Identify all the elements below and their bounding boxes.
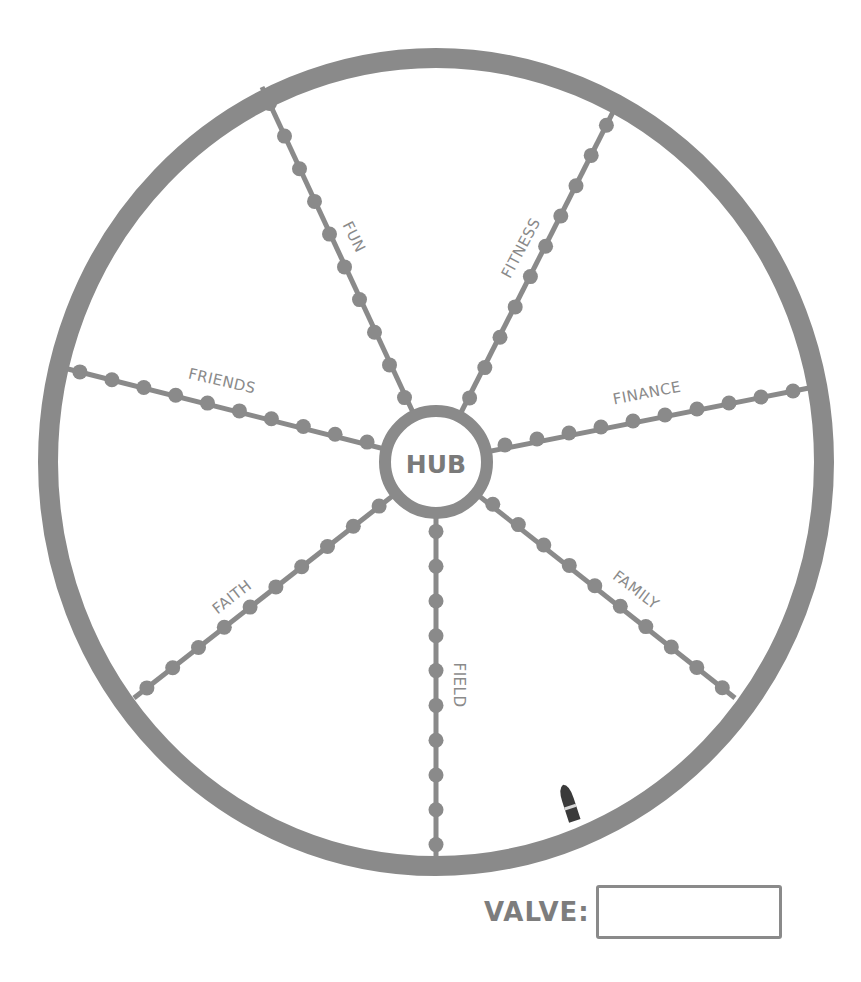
spoke-dot xyxy=(367,325,382,340)
hub-label: HUB xyxy=(406,450,466,479)
spoke-dot xyxy=(562,426,577,441)
spoke-dot xyxy=(690,402,705,417)
valve-input[interactable] xyxy=(596,885,782,939)
spoke-dot xyxy=(243,600,258,615)
spoke-label-field: FIELD xyxy=(450,663,468,708)
spoke-dot xyxy=(477,360,492,375)
spoke-dot xyxy=(191,640,206,655)
spoke-fitness xyxy=(436,110,614,462)
spoke-dot xyxy=(360,435,375,450)
spoke-dot xyxy=(139,680,154,695)
spoke-dot xyxy=(569,178,584,193)
valve-label: VALVE: xyxy=(484,897,590,927)
spoke-line xyxy=(134,462,436,698)
spoke-dot xyxy=(382,357,397,372)
spoke-dot xyxy=(536,538,551,553)
spoke-dot xyxy=(722,396,737,411)
spoke-dot xyxy=(200,396,215,411)
spoke-dot xyxy=(530,432,545,447)
spoke-dot xyxy=(584,148,599,163)
spoke-dot xyxy=(498,438,513,453)
spoke-line xyxy=(436,462,735,698)
spoke-dot xyxy=(429,768,444,783)
spoke-dot xyxy=(72,364,87,379)
spoke-label-fitness: FITNESS xyxy=(498,215,545,281)
spoke-dot xyxy=(429,594,444,609)
spoke-dot xyxy=(397,390,412,405)
spoke-dot xyxy=(538,239,553,254)
spoke-dot xyxy=(429,698,444,713)
spoke-label-finance: FINANCE xyxy=(611,378,682,409)
spoke-dot xyxy=(658,408,673,423)
spoke-dot xyxy=(346,519,361,534)
spoke-line xyxy=(262,87,436,462)
spoke-dot xyxy=(754,390,769,405)
spoke-dot xyxy=(493,330,508,345)
spoke-dot xyxy=(594,420,609,435)
spoke-dot xyxy=(264,411,279,426)
spoke-dot xyxy=(328,427,343,442)
spoke-faith xyxy=(134,462,436,698)
spoke-dot xyxy=(352,292,367,307)
spoke-dot xyxy=(508,299,523,314)
spoke-dot xyxy=(462,390,477,405)
spoke-dot xyxy=(320,539,335,554)
spoke-dot xyxy=(562,558,577,573)
spoke-dot xyxy=(296,419,311,434)
spoke-dot xyxy=(136,380,151,395)
spoke-family xyxy=(436,462,735,698)
spoke-dot xyxy=(217,620,232,635)
spoke-dot xyxy=(268,579,283,594)
spoke-dot xyxy=(322,227,337,242)
spoke-fun xyxy=(262,87,436,462)
spoke-dot xyxy=(485,497,500,512)
spoke-dot xyxy=(372,499,387,514)
spoke-dot xyxy=(307,194,322,209)
spoke-dot xyxy=(523,269,538,284)
spoke-dot xyxy=(232,403,247,418)
spoke-dot xyxy=(168,388,183,403)
spoke-dot xyxy=(337,259,352,274)
spoke-dot xyxy=(638,619,653,634)
spoke-dot xyxy=(511,517,526,532)
spoke-dot xyxy=(104,372,119,387)
spoke-dot xyxy=(292,161,307,176)
spoke-dot xyxy=(429,663,444,678)
spoke-dot xyxy=(294,559,309,574)
valve-stem-icon xyxy=(557,783,580,823)
valve-field-row: VALVE: xyxy=(484,885,782,939)
spoke-dot xyxy=(587,578,602,593)
spoke-field xyxy=(429,462,444,862)
spoke-dot xyxy=(599,118,614,133)
spoke-dot xyxy=(613,599,628,614)
spoke-dot xyxy=(429,628,444,643)
spoke-label-friends: FRIENDS xyxy=(186,364,257,397)
spoke-dot xyxy=(715,680,730,695)
spoke-line xyxy=(436,110,614,462)
spoke-dot xyxy=(689,660,704,675)
spoke-dot xyxy=(626,414,641,429)
spoke-dot xyxy=(429,559,444,574)
spoke-label-fun: FUN xyxy=(339,219,370,256)
spoke-dot xyxy=(277,129,292,144)
spoke-dot xyxy=(429,837,444,852)
spoke-dot xyxy=(429,802,444,817)
wheel-diagram: HUB FUNFITNESSFRIENDSFINANCEFAITHFIELDFA… xyxy=(0,0,861,982)
spoke-dot xyxy=(553,209,568,224)
spoke-dot xyxy=(429,524,444,539)
spoke-dot xyxy=(429,733,444,748)
spoke-dot xyxy=(664,640,679,655)
spoke-dot xyxy=(165,660,180,675)
spoke-dot xyxy=(786,384,801,399)
